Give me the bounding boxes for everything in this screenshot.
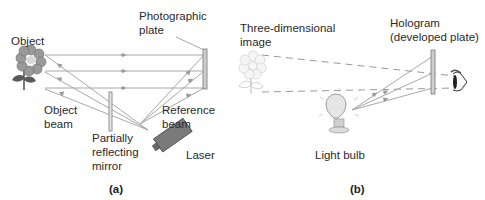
- holography-diagram: Object Photographic plate Object beam Re…: [0, 0, 485, 200]
- label-object-beam-1: Object: [44, 104, 78, 116]
- label-reference-beam-1: Reference: [162, 104, 215, 116]
- photographic-plate: [203, 49, 207, 89]
- panel-b: Three-dimensional image Hologram (develo…: [239, 17, 479, 195]
- eye-icon: [451, 70, 467, 91]
- label-mirror-1: Partially: [92, 132, 133, 144]
- label-mirror-2: reflecting: [92, 146, 139, 158]
- panel-a: Object Photographic plate Object beam Re…: [11, 10, 215, 195]
- label-three-dimensional-image-1: Three-dimensional: [240, 22, 335, 34]
- label-reference-beam-2: beam: [162, 118, 191, 130]
- label-hologram-2: (developed plate): [390, 31, 479, 43]
- label-three-dimensional-image-2: image: [240, 36, 271, 48]
- partially-reflecting-mirror: [109, 92, 112, 131]
- label-light-bulb: Light bulb: [315, 149, 365, 161]
- caption-b: (b): [350, 183, 365, 195]
- object-beam-rays: [45, 55, 204, 88]
- label-laser: Laser: [186, 149, 215, 161]
- label-photographic-plate-1: Photographic: [139, 10, 207, 22]
- caption-a: (a): [109, 183, 123, 195]
- flower-object-icon: [12, 45, 46, 90]
- bulb-to-hologram-rays: [352, 56, 433, 110]
- label-photographic-plate-2: plate: [139, 24, 164, 36]
- hologram-plate: [431, 50, 435, 94]
- label-hologram-1: Hologram: [390, 17, 440, 29]
- label-object: Object: [11, 35, 45, 47]
- label-object-beam-2: beam: [44, 118, 73, 130]
- light-bulb-icon: [319, 88, 359, 133]
- label-mirror-3: mirror: [92, 160, 122, 172]
- three-dimensional-image-flower-icon: [239, 51, 266, 94]
